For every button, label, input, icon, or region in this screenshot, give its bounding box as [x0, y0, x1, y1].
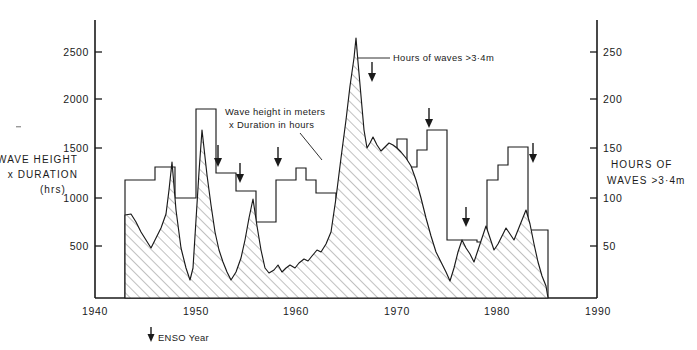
chart-svg: 500 1000 1500 2000 2500 WAVE HEIGHT x DU… [0, 0, 697, 350]
left-ticklabel-500: 500 [70, 240, 89, 252]
left-axis-ticks: 500 1000 1500 2000 2500 [63, 46, 102, 252]
left-ticklabel-1000: 1000 [63, 192, 89, 204]
x-ticklabel-1980: 1980 [484, 305, 510, 317]
right-ticklabel-250: 250 [603, 46, 622, 58]
enso-arrow-1973 [425, 108, 433, 128]
right-ticklabel-100: 100 [603, 192, 622, 204]
scan-artifact [16, 126, 21, 127]
enso-arrow-1981 [529, 143, 537, 163]
right-ticklabel-200: 200 [603, 93, 622, 105]
x-ticklabel-1990: 1990 [585, 305, 611, 317]
enso-arrow-1958 [274, 147, 282, 167]
annotation-wave-height-line2: x Duration in hours [229, 119, 314, 130]
enso-arrow-1954 [236, 163, 244, 183]
annotation-wave-height-duration: Wave height in meters x Duration in hour… [225, 106, 325, 160]
annotation-hours-of-waves-text: Hours of waves >3·4m [393, 52, 494, 63]
x-ticklabel-1940: 1940 [82, 305, 108, 317]
left-ticklabel-2000: 2000 [63, 93, 89, 105]
left-ticklabel-2500: 2500 [63, 46, 89, 58]
right-axis-ticks: 50 100 150 200 250 [590, 46, 622, 252]
enso-arrow-1967 [368, 62, 376, 82]
enso-arrow-1952 [214, 145, 222, 167]
left-ticklabel-1500: 1500 [63, 142, 89, 154]
left-axis-title-line3: (hrs) [40, 184, 66, 195]
x-ticklabel-1970: 1970 [384, 305, 410, 317]
right-ticklabel-150: 150 [603, 142, 622, 154]
series-wave-height-duration-area [125, 38, 548, 298]
right-axis-title-line1: HOURS OF [611, 159, 673, 170]
bottom-axis-ticks: 1940 1950 1960 1970 1980 1990 [82, 305, 611, 317]
left-axis-title-line1: WAVE HEIGHT [0, 154, 78, 165]
right-axis-title: HOURS OF WAVES >3·4m [607, 159, 686, 186]
enso-legend-arrow-icon [148, 327, 155, 342]
right-ticklabel-50: 50 [603, 240, 616, 252]
x-ticklabel-1960: 1960 [283, 305, 309, 317]
annotation-leader-line-waveheight [300, 133, 322, 160]
x-ticklabel-1950: 1950 [183, 305, 209, 317]
wave-climate-chart: 500 1000 1500 2000 2500 WAVE HEIGHT x DU… [0, 0, 697, 350]
enso-legend-label: ENSO Year [158, 332, 209, 343]
annotation-hours-of-waves: Hours of waves >3·4m [358, 52, 494, 63]
left-axis-title-line2: x DURATION [8, 169, 78, 180]
right-axis-title-line2: WAVES >3·4m [607, 175, 686, 186]
enso-arrow-1977 [462, 207, 470, 227]
enso-legend: ENSO Year [148, 327, 210, 343]
annotation-wave-height-line1: Wave height in meters [225, 106, 325, 117]
left-axis-title: WAVE HEIGHT x DURATION (hrs) [0, 154, 78, 195]
